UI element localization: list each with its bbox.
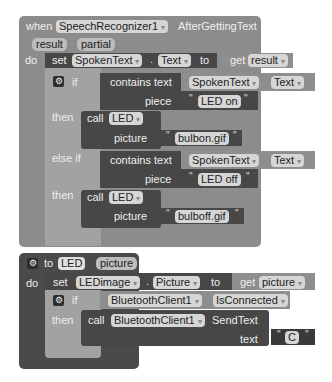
property-dropdown[interactable]: Text▾ (271, 76, 304, 89)
component-name: SpokenText (75, 54, 132, 66)
text-value[interactable]: bulboff.gif (175, 210, 229, 223)
property-name: Text (274, 76, 294, 88)
chevron-down-icon: ▾ (281, 57, 285, 66)
picture-arg-label: picture (114, 131, 147, 145)
method-name: SendText (212, 313, 258, 327)
picture-arg-label: picture (114, 209, 147, 223)
quote-icon: " (166, 130, 170, 141)
quote-icon: " (189, 93, 193, 104)
keyword-call: call (87, 111, 104, 125)
component-name: BluetoothClient1 (111, 294, 192, 306)
chevron-down-icon: ▾ (136, 115, 140, 124)
quote-icon: " (166, 208, 170, 219)
variable-dropdown[interactable]: result▾ (248, 54, 288, 67)
variable-name: result (251, 54, 278, 66)
keyword-else-if: else if (52, 151, 81, 165)
chevron-down-icon: ▾ (135, 57, 139, 66)
keyword-call: call (87, 190, 104, 204)
keyword-then: then (52, 188, 73, 202)
procedure-dropdown[interactable]: LED▾ (109, 191, 143, 204)
quote-icon: " (244, 93, 248, 104)
chevron-down-icon: ▾ (136, 194, 140, 203)
component-dropdown[interactable]: BluetoothClient1▾ (108, 294, 202, 307)
chevron-down-icon: ▾ (193, 279, 197, 288)
dot-separator: . (146, 275, 149, 287)
component-name: SpokenText (192, 76, 249, 88)
param-partial[interactable]: partial (77, 38, 115, 51)
keyword-to: to (44, 256, 53, 270)
component-dropdown[interactable]: LEDimage▾ (76, 276, 140, 289)
if-block-footer (45, 228, 101, 245)
component-dropdown[interactable]: SpokenText▾ (72, 54, 142, 67)
property-name: Text (274, 154, 294, 166)
keyword-then: then (52, 110, 73, 124)
chevron-down-icon: ▾ (252, 79, 256, 88)
event-name: AfterGettingText (178, 19, 257, 33)
property-dropdown[interactable]: Picture▾ (153, 276, 200, 289)
keyword-do: do (26, 276, 38, 290)
property-dropdown[interactable]: Text▾ (158, 54, 191, 67)
keyword-if: if (72, 293, 78, 307)
keyword-get: get (230, 53, 245, 67)
keyword-set: set (53, 275, 68, 289)
procedure-name: LED (112, 112, 133, 124)
text-value[interactable]: bulbon.gif (175, 132, 229, 145)
variable-dropdown[interactable]: picture▾ (259, 276, 305, 289)
property-dropdown[interactable]: Text▾ (271, 154, 304, 167)
keyword-get: get (240, 275, 255, 289)
chevron-down-icon: ▾ (297, 157, 301, 166)
keyword-if: if (72, 75, 78, 89)
property-name: Picture (156, 276, 190, 288)
contains-text-label: contains text (110, 153, 172, 167)
text-arg-label: text (240, 332, 258, 346)
text-value[interactable]: LED on (198, 95, 241, 108)
piece-label: piece (145, 94, 171, 108)
component-dropdown[interactable]: SpokenText▾ (189, 76, 259, 89)
piece-label: piece (145, 172, 171, 186)
procedure-dropdown[interactable]: LED▾ (109, 112, 143, 125)
chevron-down-icon: ▾ (297, 79, 301, 88)
gear-icon[interactable]: ⚙ (27, 258, 38, 269)
quote-icon: " (246, 171, 250, 182)
chevron-down-icon: ▾ (184, 57, 188, 66)
component-dropdown[interactable]: BluetoothClient1▾ (111, 314, 205, 327)
chevron-down-icon: ▾ (161, 23, 165, 32)
text-value[interactable]: C (285, 331, 299, 344)
keyword-to: to (200, 53, 209, 67)
chevron-down-icon: ▾ (133, 279, 137, 288)
keyword-to: to (211, 275, 220, 289)
param-picture[interactable]: picture (96, 257, 137, 270)
dot-separator: . (150, 53, 153, 65)
quote-icon: " (305, 329, 309, 340)
chevron-down-icon: ▾ (281, 297, 285, 306)
variable-name: picture (262, 276, 295, 288)
param-result[interactable]: result (32, 38, 67, 51)
component-name: SpokenText (192, 154, 249, 166)
keyword-set: set (52, 53, 67, 67)
keyword-do: do (25, 53, 37, 67)
procedure-name-field[interactable]: LED (58, 257, 85, 270)
keyword-when: when (26, 19, 52, 33)
keyword-call: call (88, 313, 105, 327)
quote-icon: " (277, 329, 281, 340)
chevron-down-icon: ▾ (252, 157, 256, 166)
component-name: BluetoothClient1 (114, 314, 195, 326)
component-name: LEDimage (79, 276, 130, 288)
procedure-name: LED (112, 191, 133, 203)
contains-text-label: contains text (110, 75, 172, 89)
property-name: IsConnected (216, 294, 278, 306)
text-value[interactable]: LED off (198, 173, 241, 186)
property-dropdown[interactable]: IsConnected▾ (213, 294, 288, 307)
chevron-down-icon: ▾ (198, 317, 202, 326)
quote-icon: " (233, 130, 237, 141)
property-name: Text (161, 54, 181, 66)
quote-icon: " (189, 171, 193, 182)
component-name: SpeechRecognizer1 (59, 20, 158, 32)
gear-icon[interactable]: ⚙ (53, 76, 64, 87)
gear-icon[interactable]: ⚙ (53, 295, 64, 306)
component-dropdown[interactable]: SpeechRecognizer1▾ (56, 20, 168, 33)
keyword-then: then (52, 313, 73, 327)
component-dropdown[interactable]: SpokenText▾ (189, 154, 259, 167)
chevron-down-icon: ▾ (195, 297, 199, 306)
chevron-down-icon: ▾ (298, 279, 302, 288)
